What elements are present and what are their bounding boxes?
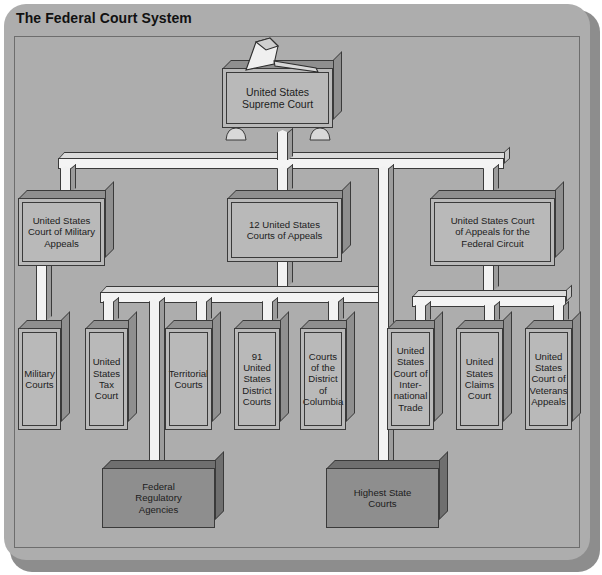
node-label: United States Claims Court xyxy=(462,354,497,403)
node-label: United States Court of Military Appeals xyxy=(25,213,98,251)
node-courts-district-columbia[interactable]: Courts of the District of Columbia xyxy=(300,320,355,430)
node-label: United States Court of Inter- national T… xyxy=(390,343,430,415)
node-label: United States Court of Veterans Appeals xyxy=(527,349,571,410)
node-label: 91 United States District Courts xyxy=(239,349,274,410)
node-courts-of-appeals[interactable]: 12 United States Courts of Appeals xyxy=(227,190,351,262)
node-court-military-appeals[interactable]: United States Court of Military Appeals xyxy=(18,190,114,266)
node-us-claims-court[interactable]: United States Claims Court xyxy=(456,320,512,430)
node-court-appeals-federal-circuit[interactable]: United States Court of Appeals for the F… xyxy=(430,190,564,266)
page-title: The Federal Court System xyxy=(16,10,192,26)
node-us-tax-court[interactable]: United States Tax Court xyxy=(85,320,137,430)
node-federal-regulatory-agencies[interactable]: Federal Regulatory Agencies xyxy=(102,460,224,528)
node-label: Federal Regulatory Agencies xyxy=(132,479,184,517)
node-label-wrap: United States Supreme Court xyxy=(222,68,333,128)
diagram-canvas: The Federal Court System United States S… xyxy=(0,0,602,575)
node-territorial-courts[interactable]: Territorial Courts xyxy=(165,320,221,430)
node-label: Territorial Courts xyxy=(166,366,211,393)
node-label: United States Tax Court xyxy=(86,354,127,403)
node-label: United States Court of Appeals for the F… xyxy=(448,213,538,251)
node-us-district-courts[interactable]: 91 United States District Courts xyxy=(234,320,289,430)
node-court-veterans-appeals[interactable]: United States Court of Veterans Appeals xyxy=(525,320,581,430)
node-label: United States Supreme Court xyxy=(239,84,316,113)
node-label: Military Courts xyxy=(21,366,57,393)
gavel-icon xyxy=(232,34,342,74)
node-label: 12 United States Courts of Appeals xyxy=(244,217,326,244)
node-military-courts[interactable]: Military Courts xyxy=(18,320,70,430)
node-label: Highest State Courts xyxy=(351,485,415,512)
node-highest-state-courts[interactable]: Highest State Courts xyxy=(326,460,448,528)
supreme-court-legs xyxy=(222,126,344,142)
node-label: Courts of the District of Columbia xyxy=(300,349,347,410)
node-court-international-trade[interactable]: United States Court of Inter- national T… xyxy=(387,320,443,430)
